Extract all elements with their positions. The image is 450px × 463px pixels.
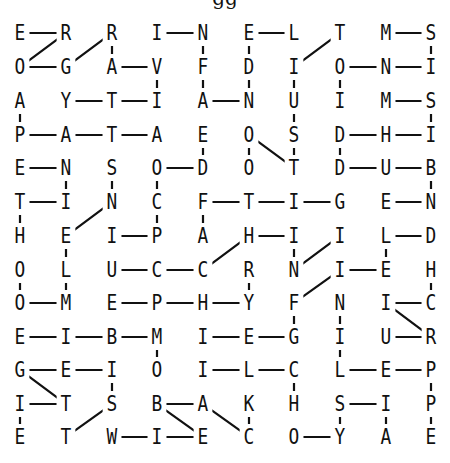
letter-cell[interactable]: I [57, 324, 76, 350]
letter-cell[interactable]: N [194, 20, 213, 46]
letter-cell[interactable]: S [285, 122, 304, 148]
letter-cell[interactable]: O [148, 155, 167, 181]
letter-cell[interactable]: C [240, 424, 259, 450]
letter-cell[interactable]: E [103, 290, 122, 316]
letter-cell[interactable]: I [285, 223, 304, 249]
letter-cell[interactable]: I [331, 88, 350, 114]
letter-cell[interactable]: I [11, 391, 30, 417]
letter-cell[interactable]: T [285, 155, 304, 181]
letter-cell[interactable]: F [194, 54, 213, 80]
letter-cell[interactable]: N [422, 189, 441, 215]
letter-cell[interactable]: A [11, 88, 30, 114]
letter-cell[interactable]: P [148, 290, 167, 316]
letter-cell[interactable]: N [285, 257, 304, 283]
letter-cell[interactable]: A [57, 122, 76, 148]
letter-cell[interactable]: E [240, 20, 259, 46]
letter-cell[interactable]: I [422, 54, 441, 80]
letter-cell[interactable]: L [285, 20, 304, 46]
letter-cell[interactable]: T [57, 391, 76, 417]
letter-cell[interactable]: C [422, 290, 441, 316]
letter-cell[interactable]: T [57, 424, 76, 450]
letter-cell[interactable]: A [194, 223, 213, 249]
letter-cell[interactable]: A [103, 54, 122, 80]
letter-cell[interactable]: T [240, 189, 259, 215]
letter-cell[interactable]: R [240, 257, 259, 283]
letter-cell[interactable]: Y [331, 424, 350, 450]
letter-cell[interactable]: N [240, 88, 259, 114]
letter-cell[interactable]: C [148, 257, 167, 283]
letter-cell[interactable]: G [285, 324, 304, 350]
letter-cell[interactable]: H [422, 257, 441, 283]
letter-cell[interactable]: O [11, 54, 30, 80]
letter-cell[interactable]: M [148, 324, 167, 350]
letter-cell[interactable]: H [240, 223, 259, 249]
letter-cell[interactable]: N [331, 290, 350, 316]
letter-cell[interactable]: E [240, 324, 259, 350]
letter-cell[interactable]: N [377, 54, 396, 80]
letter-cell[interactable]: U [285, 88, 304, 114]
letter-cell[interactable]: I [194, 357, 213, 383]
letter-cell[interactable]: H [377, 122, 396, 148]
letter-cell[interactable]: U [377, 155, 396, 181]
letter-cell[interactable]: S [331, 391, 350, 417]
letter-cell[interactable]: G [57, 54, 76, 80]
letter-cell[interactable]: L [240, 357, 259, 383]
letter-cell[interactable]: Y [240, 290, 259, 316]
letter-cell[interactable]: T [103, 122, 122, 148]
letter-cell[interactable]: M [377, 20, 396, 46]
letter-cell[interactable]: E [11, 155, 30, 181]
letter-cell[interactable]: B [148, 391, 167, 417]
letter-cell[interactable]: T [331, 20, 350, 46]
letter-cell[interactable]: I [377, 290, 396, 316]
letter-cell[interactable]: E [194, 122, 213, 148]
letter-cell[interactable]: E [11, 324, 30, 350]
letter-cell[interactable]: I [285, 54, 304, 80]
letter-cell[interactable]: O [148, 357, 167, 383]
letter-cell[interactable]: O [11, 257, 30, 283]
letter-cell[interactable]: N [57, 155, 76, 181]
letter-cell[interactable]: I [57, 189, 76, 215]
letter-cell[interactable]: E [377, 189, 396, 215]
letter-cell[interactable]: L [57, 257, 76, 283]
letter-cell[interactable]: T [11, 189, 30, 215]
letter-cell[interactable]: I [103, 357, 122, 383]
letter-cell[interactable]: C [285, 357, 304, 383]
letter-cell[interactable]: H [194, 290, 213, 316]
letter-cell[interactable]: O [240, 122, 259, 148]
letter-cell[interactable]: L [331, 357, 350, 383]
letter-cell[interactable]: A [194, 88, 213, 114]
letter-cell[interactable]: I [331, 223, 350, 249]
letter-cell[interactable]: E [422, 424, 441, 450]
letter-cell[interactable]: H [11, 223, 30, 249]
letter-cell[interactable]: O [285, 424, 304, 450]
letter-cell[interactable]: V [148, 54, 167, 80]
letter-cell[interactable]: D [331, 122, 350, 148]
letter-cell[interactable]: M [57, 290, 76, 316]
letter-cell[interactable]: E [11, 20, 30, 46]
letter-cell[interactable]: S [422, 88, 441, 114]
letter-cell[interactable]: D [422, 223, 441, 249]
letter-cell[interactable]: P [422, 391, 441, 417]
letter-cell[interactable]: D [240, 54, 259, 80]
letter-cell[interactable]: A [148, 122, 167, 148]
letter-cell[interactable]: E [194, 424, 213, 450]
letter-cell[interactable]: T [103, 88, 122, 114]
letter-cell[interactable]: U [103, 257, 122, 283]
letter-cell[interactable]: B [422, 155, 441, 181]
letter-cell[interactable]: I [331, 257, 350, 283]
letter-cell[interactable]: R [57, 20, 76, 46]
letter-cell[interactable]: E [377, 257, 396, 283]
letter-cell[interactable]: I [103, 223, 122, 249]
letter-cell[interactable]: E [11, 424, 30, 450]
letter-cell[interactable]: P [11, 122, 30, 148]
letter-cell[interactable]: I [194, 324, 213, 350]
letter-cell[interactable]: P [422, 357, 441, 383]
letter-cell[interactable]: C [194, 257, 213, 283]
letter-cell[interactable]: K [240, 391, 259, 417]
letter-cell[interactable]: E [57, 223, 76, 249]
letter-cell[interactable]: I [285, 189, 304, 215]
letter-cell[interactable]: B [103, 324, 122, 350]
letter-cell[interactable]: S [103, 391, 122, 417]
letter-cell[interactable]: R [103, 20, 122, 46]
letter-cell[interactable]: L [377, 223, 396, 249]
